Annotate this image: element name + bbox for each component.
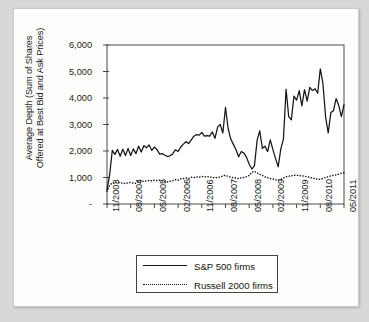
x-axis-tick-label: 11/2006 bbox=[205, 179, 215, 212]
x-axis-tick-label: 11/2009 bbox=[300, 179, 310, 212]
legend-swatch-dotted-line-icon bbox=[143, 280, 187, 290]
figure-root: Average Depth (Sum of Shares Offered at … bbox=[0, 0, 369, 322]
legend-swatch-solid-line-icon bbox=[143, 261, 187, 271]
x-axis-tick-label: 05/2008 bbox=[253, 179, 263, 212]
chart-stage: Average Depth (Sum of Shares Offered at … bbox=[14, 9, 358, 306]
x-axis-tick-label: 05/2011 bbox=[348, 179, 358, 212]
legend-item-russell-2000-firms: Russell 2000 firms bbox=[137, 276, 277, 294]
chart-legend: S&P 500 firms Russell 2000 firms bbox=[136, 255, 278, 293]
x-axis-tick-label: 08/2004 bbox=[134, 179, 144, 212]
x-axis-tick-label: 08/2010 bbox=[324, 179, 334, 212]
legend-label-sp-500-firms: S&P 500 firms bbox=[187, 261, 255, 272]
figure-card: Average Depth (Sum of Shares Offered at … bbox=[13, 8, 359, 307]
x-axis-tick-label: 11/2003 bbox=[111, 179, 121, 212]
legend-label-russell-2000-firms: Russell 2000 firms bbox=[187, 280, 273, 291]
legend-item-sp-500-firms: S&P 500 firms bbox=[137, 257, 277, 275]
x-axis-tick-label: 02/2009 bbox=[276, 179, 286, 212]
x-axis-tick-label: 05/2005 bbox=[158, 179, 168, 212]
x-axis-tick-label: 02/2006 bbox=[182, 179, 192, 212]
x-axis-tick-label: 08/2007 bbox=[229, 179, 239, 212]
